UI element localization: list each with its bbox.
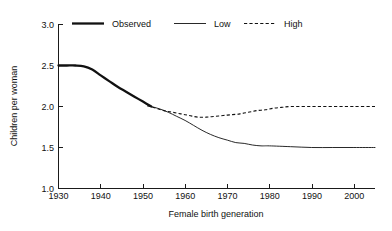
y-tick-label-2-0: 2.0 [41, 102, 54, 112]
x-tick-label-2000: 2000 [344, 191, 364, 201]
chart-figure: 1.0 1.5 2.0 2.5 3.0 1930 1940 1950 1960 … [0, 0, 392, 231]
x-tick-label-1990: 1990 [302, 191, 322, 201]
y-axis-ticks: 1.0 1.5 2.0 2.5 3.0 [41, 20, 63, 194]
series-group [59, 65, 376, 147]
x-tick-label-1930: 1930 [48, 191, 68, 201]
x-axis-ticks: 1930 1940 1950 1960 1970 1980 1990 2000 [48, 184, 364, 201]
y-tick-label-2-5: 2.5 [41, 61, 54, 71]
legend-item-high[interactable]: High [244, 19, 303, 29]
x-tick-label-1970: 1970 [217, 191, 237, 201]
series-line-low [151, 107, 375, 148]
legend-label-observed: Observed [112, 19, 151, 29]
y-axis-title: Children per woman [9, 66, 19, 147]
y-tick-label-1-5: 1.5 [41, 143, 54, 153]
legend-item-low[interactable]: Low [174, 19, 231, 29]
legend-label-high: High [284, 19, 303, 29]
series-line-high [147, 106, 375, 118]
legend-item-observed[interactable]: Observed [72, 19, 151, 29]
x-tick-label-1980: 1980 [260, 191, 280, 201]
legend-label-low: Low [214, 19, 231, 29]
y-tick-label-3-0: 3.0 [41, 20, 54, 30]
axes [59, 24, 376, 189]
x-tick-label-1960: 1960 [175, 191, 195, 201]
x-axis-title: Female birth generation [168, 209, 263, 219]
x-tick-label-1950: 1950 [133, 191, 153, 201]
chart-legend: Observed Low High [72, 19, 303, 29]
series-line-observed [59, 65, 152, 106]
line-chart: 1.0 1.5 2.0 2.5 3.0 1930 1940 1950 1960 … [0, 0, 392, 231]
x-tick-label-1940: 1940 [91, 191, 111, 201]
